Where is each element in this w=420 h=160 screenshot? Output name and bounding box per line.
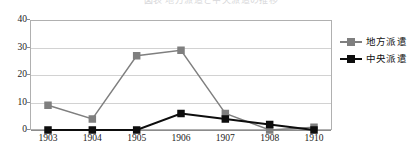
legend-marker-icon [340,36,362,47]
legend-item-2[interactable]: 中央派遣 [340,50,420,67]
y-tick-label: 10 [3,98,27,108]
x-tick-label: 1910 [305,133,324,144]
axis-baseline [31,130,331,131]
x-tick-label: 1904 [83,133,102,144]
clipped-caption: 図表 地方派遣と中央派遣の推移 [42,0,380,6]
x-tick-label: 1906 [172,133,191,144]
legend-marker-icon [340,53,362,64]
gridline [31,75,331,76]
y-tick-label: 40 [3,15,27,25]
legend-label: 地方派遣 [366,36,407,47]
chart-legend: 地方派遣中央派遣 [340,33,420,67]
x-tick-label: 1907 [216,133,235,144]
legend-item-1[interactable]: 地方派遣 [340,33,420,50]
gridline [31,103,331,104]
y-tick-label: 30 [3,43,27,53]
x-tick-label: 1908 [260,133,279,144]
x-tick-label: 1905 [127,133,146,144]
legend-label: 中央派遣 [366,53,407,64]
x-tick-label: 1903 [39,133,58,144]
chart-figure: 図表 地方派遣と中央派遣の推移 010203040 19031904190519… [0,0,420,160]
clipped-caption-text: 図表 地方派遣と中央派遣の推移 [144,0,278,5]
x-axis: 1903190419051906190719081910 [0,133,420,149]
y-tick-label: 20 [3,70,27,80]
plot-area [30,20,332,130]
gridline [31,48,331,49]
